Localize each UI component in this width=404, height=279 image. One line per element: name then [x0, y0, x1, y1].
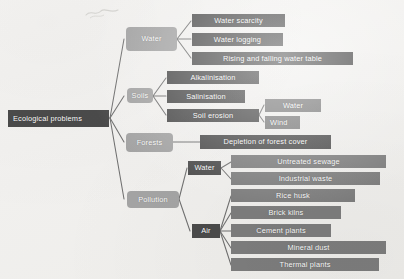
- node-label: Brick kilns: [269, 209, 304, 216]
- node-label: Pollution: [138, 196, 168, 203]
- node-water-logging[interactable]: Water logging: [192, 33, 283, 46]
- node-label: Water: [194, 164, 214, 171]
- node-label: Air: [201, 227, 210, 234]
- node-rising-falling-water-table[interactable]: Rising and falling water table: [192, 52, 353, 65]
- scan-smudge-mark: [84, 6, 120, 20]
- node-label: Cement plants: [256, 227, 306, 234]
- node-thermal-plants[interactable]: Thermal plants: [231, 258, 379, 271]
- node-brick-kilns[interactable]: Brick kilns: [231, 206, 341, 219]
- node-label: Salinisation: [186, 93, 226, 100]
- node-untreated-sewage[interactable]: Untreated sewage: [231, 155, 386, 168]
- node-label: Rice husk: [276, 192, 310, 199]
- node-forests-branch[interactable]: Forests: [126, 133, 173, 152]
- node-ecological-problems[interactable]: Ecological problems: [8, 110, 109, 127]
- node-soils-branch[interactable]: Soils: [127, 88, 153, 103]
- node-label: Water: [141, 35, 161, 42]
- node-soil-erosion-water[interactable]: Water: [265, 99, 321, 112]
- node-pollution-branch[interactable]: Pollution: [127, 191, 179, 208]
- node-label: Water scarcity: [214, 17, 263, 24]
- node-label: Depletion of forest cover: [224, 138, 308, 145]
- node-label: Water: [283, 102, 303, 109]
- node-label: Untreated sewage: [277, 158, 339, 165]
- node-industrial-waste[interactable]: Industrial waste: [231, 172, 380, 185]
- node-label: Thermal plants: [280, 261, 331, 268]
- node-label: Wind: [270, 119, 287, 126]
- node-soil-erosion-wind[interactable]: Wind: [265, 116, 300, 129]
- node-label: Industrial waste: [279, 175, 333, 182]
- node-rice-husk[interactable]: Rice husk: [231, 189, 355, 202]
- diagram-canvas: Ecological problems Water Water scarcity…: [0, 0, 404, 279]
- node-label: Soils: [132, 92, 149, 99]
- node-label: Alkalinisation: [190, 74, 235, 81]
- node-label: Forests: [137, 139, 163, 146]
- node-depletion-of-forest-cover[interactable]: Depletion of forest cover: [200, 135, 331, 149]
- node-pollution-air[interactable]: Air: [192, 224, 220, 238]
- node-salinisation[interactable]: Salinisation: [167, 90, 245, 103]
- node-water-scarcity[interactable]: Water scarcity: [192, 14, 285, 27]
- node-label: Water logging: [214, 36, 261, 43]
- node-label: Ecological problems: [13, 115, 82, 122]
- node-label: Rising and falling water table: [223, 55, 322, 62]
- node-cement-plants[interactable]: Cement plants: [231, 224, 331, 237]
- node-soil-erosion[interactable]: Soil erosion: [167, 109, 259, 122]
- node-water-branch[interactable]: Water: [126, 27, 177, 51]
- node-pollution-water[interactable]: Water: [188, 161, 221, 175]
- node-mineral-dust[interactable]: Mineral dust: [231, 241, 386, 254]
- node-label: Soil erosion: [193, 112, 233, 119]
- node-alkalinisation[interactable]: Alkalinisation: [167, 71, 259, 84]
- node-label: Mineral dust: [287, 244, 329, 251]
